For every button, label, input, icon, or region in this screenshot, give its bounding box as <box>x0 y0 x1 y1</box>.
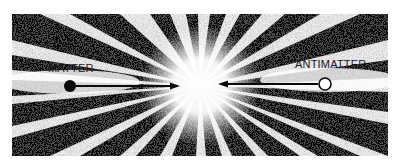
matter-label: MATTER <box>48 62 94 74</box>
annihilation-illustration <box>0 0 403 166</box>
burst-rays <box>0 14 400 156</box>
antimatter-particle-icon <box>319 78 331 90</box>
matter-particle-icon <box>64 80 76 92</box>
antimatter-label: ANTIMATTER <box>295 58 366 70</box>
